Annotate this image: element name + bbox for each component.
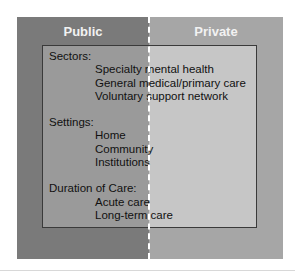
public-private-divider — [148, 17, 150, 259]
group-item: Specialty mental health — [95, 63, 246, 76]
group-item: Community — [95, 143, 246, 156]
group-item: Institutions — [95, 156, 246, 169]
private-column-title: Private — [149, 24, 283, 39]
group-item: Acute care — [95, 196, 246, 209]
group-item: Voluntary support network — [95, 90, 246, 103]
bottom-rule — [0, 270, 295, 271]
public-column-title: Public — [17, 24, 149, 39]
group-item: Long-term care — [95, 209, 246, 222]
diagram-outer-box: Public Private Sectors: Specialty mental… — [17, 17, 283, 259]
group-item: Home — [95, 129, 246, 142]
group-item: General medical/primary care — [95, 77, 246, 90]
